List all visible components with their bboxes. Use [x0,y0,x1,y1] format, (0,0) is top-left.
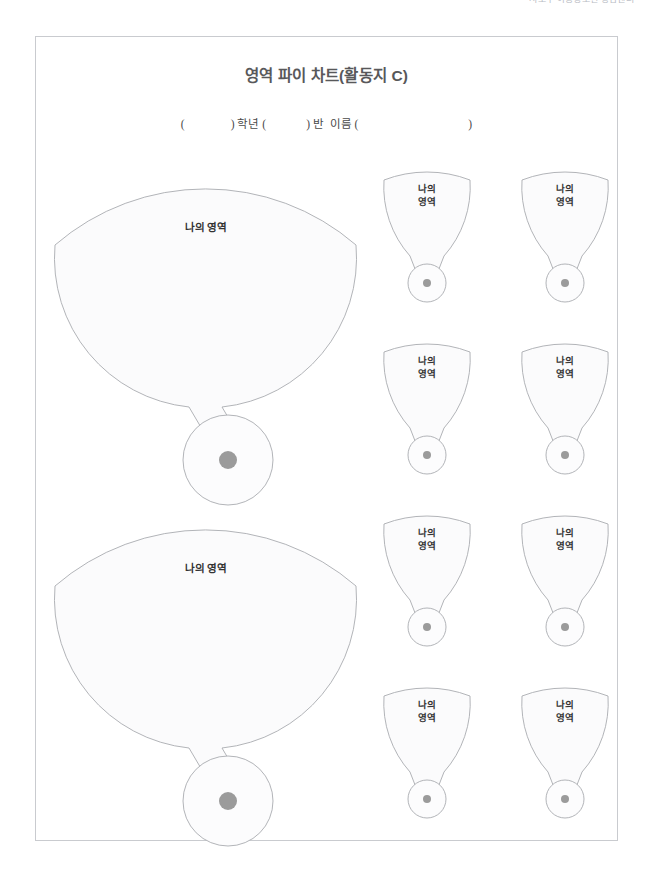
pivot-dot [423,623,431,631]
grade-field-open: ( [181,118,185,130]
pie-chart-small-6[interactable]: 나의 영역 [517,500,613,630]
pie-chart-small-2[interactable]: 나의 영역 [517,156,613,286]
pivot-dot [561,795,569,803]
wedge-shape[interactable] [54,189,356,446]
pivot-dot [423,279,431,287]
pie-chart-large-2[interactable]: 나의 영역 [46,501,366,791]
wedge-shape[interactable] [384,516,470,618]
worksheet-page: 영역 파이 차트(활동지 C) () 학년 () 반 이름 () 나의 영역 나… [35,36,618,841]
wedge-shape[interactable] [522,688,608,790]
pie-chart-small-7[interactable]: 나의 영역 [379,672,475,802]
wedge-shape[interactable] [522,516,608,618]
pivot-dot [423,795,431,803]
pie-chart-small-8[interactable]: 나의 영역 [517,672,613,802]
pivot-dot [423,451,431,459]
pie-chart-large-1[interactable]: 나의 영역 [46,160,366,450]
pie-chart-small-4[interactable]: 나의 영역 [517,328,613,458]
wedge-shape[interactable] [384,344,470,446]
pivot-dot [561,623,569,631]
wedge-shape[interactable] [384,172,470,274]
wedge-shape[interactable] [522,172,608,274]
page-title: 영역 파이 차트(활동지 C) [36,63,617,85]
pivot-dot [219,792,237,810]
pie-chart-small-3[interactable]: 나의 영역 [379,328,475,458]
name-field-close: ) [468,118,472,130]
pivot-dot [219,451,237,469]
pivot-dot [561,279,569,287]
running-header: 서초구 아동청소년 상담센터 [529,0,634,4]
pivot-dot [561,451,569,459]
student-info-line: () 학년 () 반 이름 () [36,115,617,131]
wedge-shape[interactable] [522,344,608,446]
wedge-shape[interactable] [384,688,470,790]
pie-chart-small-5[interactable]: 나의 영역 [379,500,475,630]
wedge-shape[interactable] [54,530,356,787]
grade-field-close: ) 학년 ( [231,118,266,130]
pie-chart-small-1[interactable]: 나의 영역 [379,156,475,286]
class-field-close: ) 반 이름 ( [306,118,358,130]
